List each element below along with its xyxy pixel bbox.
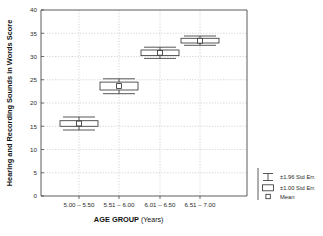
legend-mean-icon — [266, 194, 270, 198]
ytick-label-35: 35 — [30, 30, 37, 37]
ytick-label-25: 25 — [30, 76, 37, 83]
ytick-label-15: 15 — [30, 123, 37, 130]
mean-marker-1 — [77, 121, 82, 126]
ytick-label-10: 10 — [30, 146, 37, 153]
ytick-label-5: 5 — [34, 169, 38, 176]
legend-label-box: ±1.00 Std Err. — [280, 185, 316, 191]
chart-figure: 0 5 10 15 20 25 30 35 40 Hearing and Rec… — [0, 0, 323, 236]
xtick-label-group-4: 6.51 – 7.00 — [185, 201, 217, 208]
legend-label-mean: Mean — [280, 194, 295, 200]
ytick-label-40: 40 — [30, 6, 37, 13]
mean-marker-3 — [158, 50, 163, 55]
xtick-label-group-2: 5.51 – 6.00 — [104, 201, 136, 208]
legend-label-whisker: ±1.96 Std Err. — [280, 174, 316, 180]
x-axis-title: AGE GROUP — [94, 215, 139, 224]
ytick-label-20: 20 — [30, 99, 37, 106]
ytick-label-0: 0 — [34, 192, 38, 199]
xtick-label-group-1: 5.00 – 5.50 — [64, 201, 96, 208]
mean-marker-4 — [198, 38, 203, 43]
x-axis-title-units: (Years) — [141, 216, 163, 224]
mean-error-bar-chart: 0 5 10 15 20 25 30 35 40 Hearing and Rec… — [0, 0, 323, 236]
x-axis-title-group: AGE GROUP (Years) — [94, 215, 163, 224]
y-axis-title: Hearing and Recording Sounds in Words Sc… — [5, 20, 14, 187]
xtick-label-group-3: 6.01 – 6.50 — [145, 201, 177, 208]
mean-marker-2 — [117, 84, 122, 89]
ytick-label-30: 30 — [30, 53, 37, 60]
